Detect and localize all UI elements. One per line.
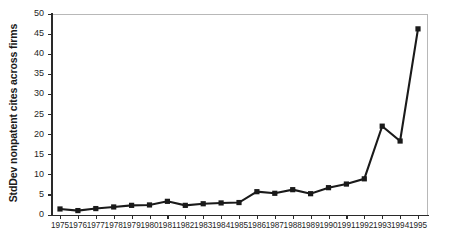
y-tick-mark: [48, 215, 52, 216]
x-tick-label-1981: 1981: [158, 221, 176, 230]
x-tick-label-1986: 1986: [248, 221, 266, 230]
x-tick-mark: [150, 215, 151, 219]
x-tick-label-1990: 1990: [319, 221, 337, 230]
x-tick-mark: [364, 215, 365, 219]
x-tick-label-1976: 1976: [69, 221, 87, 230]
x-tick-mark: [400, 215, 401, 219]
y-tick-mark: [48, 154, 52, 155]
x-tick-label-1980: 1980: [140, 221, 158, 230]
y-tick-mark: [48, 74, 52, 75]
y-tick-label: 25: [34, 109, 44, 119]
y-tick-label: 20: [34, 129, 44, 139]
x-tick-label-1992: 1992: [355, 221, 373, 230]
x-tick-label-1991: 1991: [337, 221, 355, 230]
x-tick-mark: [329, 215, 330, 219]
x-tick-mark: [346, 215, 347, 219]
y-tick-label: 5: [39, 189, 44, 199]
x-tick-mark: [114, 215, 115, 219]
x-tick-label-1985: 1985: [230, 221, 248, 230]
x-tick-mark: [221, 215, 222, 219]
y-tick-label: 30: [34, 88, 44, 98]
x-tick-label-1987: 1987: [266, 221, 284, 230]
x-tick-label-1975: 1975: [51, 221, 69, 230]
x-tick-label-1982: 1982: [176, 221, 194, 230]
x-tick-mark: [275, 215, 276, 219]
x-tick-mark: [311, 215, 312, 219]
y-tick-label: 45: [34, 28, 44, 38]
y-tick-label: 10: [34, 169, 44, 179]
x-tick-mark: [203, 215, 204, 219]
y-tick-mark: [48, 134, 52, 135]
chart-figure: StdDev nonpatent cites across firms 0510…: [0, 0, 450, 243]
x-tick-mark: [293, 215, 294, 219]
x-tick-mark: [60, 215, 61, 219]
y-tick-mark: [48, 54, 52, 55]
x-tick-label-1995: 1995: [409, 221, 427, 230]
x-tick-mark: [167, 215, 168, 219]
y-axis-title-container: StdDev nonpatent cites across firms: [0, 0, 26, 225]
y-tick-label: 0: [39, 209, 44, 219]
x-tick-label-1993: 1993: [373, 221, 391, 230]
x-tick-label-1994: 1994: [391, 221, 409, 230]
x-tick-mark: [78, 215, 79, 219]
plot-area: [52, 14, 428, 215]
x-tick-label-1989: 1989: [301, 221, 319, 230]
y-tick-mark: [48, 174, 52, 175]
x-tick-label-1978: 1978: [105, 221, 123, 230]
x-tick-label-1984: 1984: [212, 221, 230, 230]
y-tick-label: 35: [34, 68, 44, 78]
x-tick-label-1977: 1977: [87, 221, 105, 230]
x-tick-mark: [132, 215, 133, 219]
x-tick-label-1983: 1983: [194, 221, 212, 230]
y-tick-mark: [48, 94, 52, 95]
x-tick-mark: [418, 215, 419, 219]
x-tick-mark: [96, 215, 97, 219]
y-tick-mark: [48, 194, 52, 195]
x-tick-label-1979: 1979: [122, 221, 140, 230]
y-tick-label: 40: [34, 48, 44, 58]
y-tick-mark: [48, 34, 52, 35]
y-tick-label: 50: [34, 8, 44, 18]
x-tick-mark: [185, 215, 186, 219]
y-tick-label: 15: [34, 149, 44, 159]
y-tick-mark: [48, 14, 52, 15]
y-tick-mark: [48, 114, 52, 115]
x-tick-mark: [257, 215, 258, 219]
x-tick-mark: [382, 215, 383, 219]
x-tick-label-1988: 1988: [284, 221, 302, 230]
y-axis-title: StdDev nonpatent cites across firms: [7, 23, 19, 202]
x-tick-mark: [239, 215, 240, 219]
